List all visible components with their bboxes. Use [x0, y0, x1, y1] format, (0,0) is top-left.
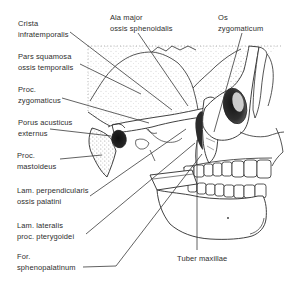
label-text: Proc. [18, 84, 61, 95]
label-text: ossis sphenoidalis [110, 23, 173, 34]
label-text: Proc. [17, 150, 56, 161]
label-for-sphenopalatinum: For. sphenopalatinum [17, 251, 76, 273]
label-text: Lam. lateralis [17, 220, 74, 231]
label-text: externus [18, 128, 72, 139]
label-text: Ala major [110, 12, 173, 23]
label-text: zygomaticum [218, 23, 263, 34]
label-porus-acusticus: Porus acusticus externus [18, 117, 72, 139]
label-text: ossis temporalis [18, 62, 73, 73]
label-text: sphenopalatinum [17, 262, 76, 273]
label-text: Porus acusticus [18, 117, 72, 128]
lower-teeth [188, 182, 266, 198]
label-lam-perpendicularis: Lam. perpendicularis ossis palatini [17, 185, 89, 207]
label-proc-zygomaticus: Proc. zygomaticus [18, 84, 61, 106]
label-text: zygomaticus [18, 95, 61, 106]
label-text: Crista [18, 18, 69, 29]
label-os-zygomaticum: Os zygomaticum [218, 12, 263, 34]
label-proc-mastoideus: Proc. mastoideus [17, 150, 56, 172]
figure: Crista infratemporalis Ala major ossis s… [0, 0, 286, 285]
label-text: mastoideus [17, 161, 56, 172]
label-text: Pars squamosa [18, 51, 73, 62]
label-pars-squamosa: Pars squamosa ossis temporalis [18, 51, 73, 73]
label-text: proc. pterygoidei [17, 231, 74, 242]
label-tuber-maxillae: Tuber maxillae [177, 253, 227, 264]
articular-tubercle [146, 128, 157, 133]
label-ala-major: Ala major ossis sphenoidalis [110, 12, 173, 34]
label-crista-infratemporalis: Crista infratemporalis [18, 18, 69, 40]
orbital-rim [267, 54, 273, 106]
label-lam-lateralis: Lam. lateralis proc. pterygoidei [17, 220, 74, 242]
label-text: infratemporalis [18, 29, 69, 40]
mental-foramen [227, 217, 229, 219]
label-text: For. [17, 251, 76, 262]
label-text: Tuber maxillae [177, 253, 227, 264]
label-text: Os [218, 12, 263, 23]
label-text: ossis palatini [17, 196, 89, 207]
mandible-body [157, 190, 266, 239]
label-text: Lam. perpendicularis [17, 185, 89, 196]
